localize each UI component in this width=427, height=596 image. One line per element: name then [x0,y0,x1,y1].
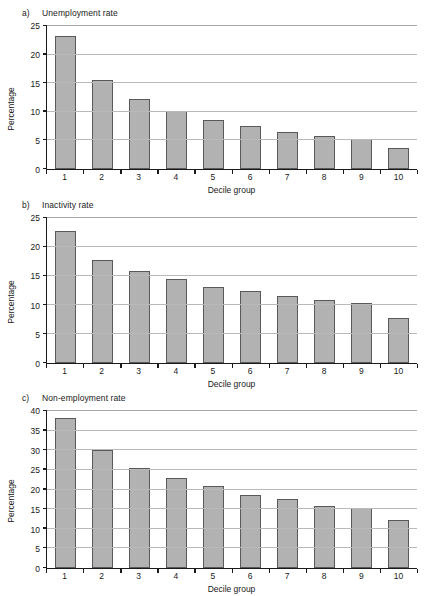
panel-a-bar-7 [277,132,298,169]
panel-a-bar-5 [203,120,224,169]
panel-c-plot: 12345678910 Decile group [46,409,417,593]
panel-c-bar-slot-10 [380,411,417,568]
panel-a-gridline-5 [47,139,417,140]
panel-c-bar-slot-1 [47,411,84,568]
panel-b-bar-8 [314,300,335,363]
panel-b-y-tick-labels: 0510152025 [18,216,44,388]
panel-b-bar-slot-3 [121,218,158,363]
panel-c-x-label-1: 1 [46,570,83,582]
panel-a-y-tick-5: 5 [35,136,40,146]
panel-b-y-tickmark-25 [43,217,47,218]
panel-a-y-tick-15: 15 [31,79,40,89]
panel-b-y-tick-15: 15 [31,271,40,281]
panel-a-gridline-10 [47,111,417,112]
panel-c-y-tickmark-15 [43,508,47,509]
panel-b-plot: 12345678910 Decile group [46,216,417,388]
panel-c-bar-slot-2 [84,411,121,568]
panel-c-y-tick-0: 0 [35,564,40,574]
panel-a-x-label-8: 8 [306,171,343,183]
panel-c-bar-6 [240,495,261,568]
panel-b-bar-slot-8 [306,218,343,363]
panel-c-bar-slot-8 [306,411,343,568]
panel-a-x-label-10: 10 [380,171,417,183]
panel-a-letter: a) [22,8,42,18]
panel-c-gridline-35 [47,430,417,431]
panel-b-bar-slot-6 [232,218,269,363]
panel-c-y-tick-10: 10 [31,525,40,535]
panel-c-y-tick-20: 20 [31,485,40,495]
panel-b-gridline-10 [47,304,417,305]
panel-b-title: b)Inactivity rate [22,200,94,210]
panel-c-bar-slot-4 [158,411,195,568]
panel-a-bar-9 [351,139,372,169]
panel-b-x-label-10: 10 [380,365,417,377]
panel-a-x-label-4: 4 [157,171,194,183]
panel-b-letter: b) [22,200,42,210]
panel-c-x-label-4: 4 [157,570,194,582]
panel-b-x-label-9: 9 [343,365,380,377]
panel-a-plot: 12345678910 Decile group [46,24,417,194]
panel-a-title-text: Unemployment rate [42,8,118,18]
panel-b-x-label-8: 8 [306,365,343,377]
panel-c-plot-box [46,411,417,569]
panel-c-y-tickmark-30 [43,449,47,450]
panel-b-bar-slot-10 [380,218,417,363]
panel-b-x-label-4: 4 [157,365,194,377]
panel-c-gridline-25 [47,469,417,470]
panel-c-y-tickmark-10 [43,527,47,528]
panel-a-bar-slot-8 [306,26,343,169]
panel-b-y-tick-5: 5 [35,330,40,340]
panel-c-y-tick-5: 5 [35,544,40,554]
panel-c-x-tick-marks [46,565,417,569]
panel-a-x-tick-labels: 12345678910 [46,171,417,183]
panel-c-y-tickmark-20 [43,488,47,489]
panel-c-plot-wrap: Percentage 0510152025303540 12345678910 … [0,409,427,593]
panel-b-y-tickmark-20 [43,246,47,247]
panel-b-y-tick-20: 20 [31,242,40,252]
panel-b-title-text: Inactivity rate [42,200,94,210]
panel-c-gridline-20 [47,489,417,490]
panel-c-y-tick-40: 40 [31,406,40,416]
panel-c-x-label-7: 7 [269,570,306,582]
panel-b-gridline-25 [47,217,417,218]
panel-c-gridline-10 [47,528,417,529]
panel-b-y-tickmark-10 [43,304,47,305]
panel-a-y-tickmark-10 [43,110,47,111]
panel-c-y-tick-15: 15 [31,505,40,515]
panel-c-x-label-6: 6 [231,570,268,582]
panel-a-x-tick-marks [46,166,417,170]
panel-c-x-label-5: 5 [194,570,231,582]
panel-c-x-label-8: 8 [306,570,343,582]
panel-c-gridline-30 [47,449,417,450]
panel-c-bar-9 [351,508,372,568]
panel-c-axis-area: 0510152025303540 12345678910 Decile grou… [18,409,417,593]
panel-b-bar-slot-5 [195,218,232,363]
panel-b-bar-slot-2 [84,218,121,363]
panel-b-bars [47,218,417,363]
panel-c-bar-slot-7 [269,411,306,568]
panel-b-y-tick-10: 10 [31,301,40,311]
panel-a-bar-slot-10 [380,26,417,169]
panel-a-bar-slot-2 [84,26,121,169]
chart-panel-c: c)Non-employment rate Percentage 0510152… [0,391,427,596]
panel-c-x-label-2: 2 [83,570,120,582]
panel-b-bar-4 [166,279,187,363]
panel-a-x-axis-title: Decile group [46,185,417,195]
panel-c-x-tickmark-10 [417,569,418,573]
panel-b-x-label-2: 2 [83,365,120,377]
panel-b-bar-10 [388,318,409,363]
panel-a-bars [47,26,417,169]
panel-a-x-label-3: 3 [120,171,157,183]
panel-a-gridline-20 [47,54,417,55]
panel-a-gridline-15 [47,82,417,83]
panel-c-y-tickmark-40 [43,410,47,411]
panel-c-bar-7 [277,499,298,568]
panel-a-y-tick-labels: 0510152025 [18,24,44,194]
panel-a-y-tick-10: 10 [31,107,40,117]
panel-b-x-label-1: 1 [46,365,83,377]
panel-a-bar-2 [92,80,113,169]
panel-b-plot-box [46,218,417,364]
panel-c-bars [47,411,417,568]
panel-c-bar-1 [55,418,76,568]
panel-b-y-axis-label: Percentage [4,216,18,388]
